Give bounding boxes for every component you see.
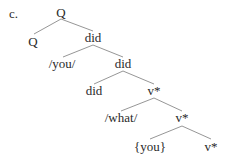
tree-node-vstar-3: v* [205,140,218,153]
tree-node-vstar: v* [148,84,161,97]
tree-edges [0,0,225,165]
example-label: c. [9,7,18,20]
tree-node-what: /what/ [105,111,138,124]
tree-node-vstar-2: v* [176,111,189,124]
edge-q-q [34,19,61,34]
tree-node-did: did [85,31,102,44]
edge-vstar-vstar2 [182,126,211,139]
tree-node-did-3: did [86,84,103,97]
tree-node-q-root: Q [56,6,65,19]
tree-node-you-braces: {you} [134,140,166,153]
tree-node-did-2: did [115,57,132,70]
edge-vstar-you [150,126,182,139]
tree-node-q: Q [28,35,37,48]
tree-node-you: /you/ [49,57,76,70]
